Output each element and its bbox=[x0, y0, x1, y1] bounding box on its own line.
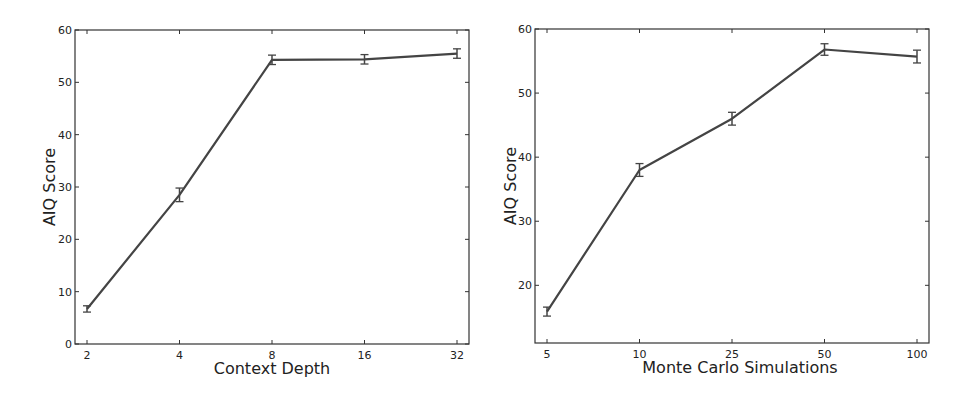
plot-frame bbox=[75, 30, 469, 344]
x-tick-label: 4 bbox=[176, 349, 183, 362]
y-axis-ticks: 2030405060 bbox=[518, 23, 929, 292]
x-axis-label: Context Depth bbox=[214, 359, 331, 378]
context-depth-plot: 0102030405060 2481632 Context Depth AIQ … bbox=[0, 0, 486, 399]
y-tick-label: 10 bbox=[58, 286, 72, 299]
x-axis-ticks: 5102550100 bbox=[544, 29, 928, 361]
y-tick-label: 40 bbox=[58, 129, 72, 142]
y-tick-label: 20 bbox=[58, 233, 72, 246]
y-tick-label: 40 bbox=[518, 151, 532, 164]
x-axis-label: Monte Carlo Simulations bbox=[642, 358, 837, 377]
plot-frame bbox=[535, 29, 929, 343]
data-series bbox=[543, 44, 921, 316]
y-tick-label: 20 bbox=[518, 279, 532, 292]
y-tick-label: 60 bbox=[518, 23, 532, 36]
error-bar bbox=[728, 112, 736, 125]
x-axis-ticks: 2481632 bbox=[84, 30, 465, 362]
series-line bbox=[87, 54, 457, 309]
x-tick-label: 5 bbox=[544, 348, 551, 361]
monte-carlo-plot: 2030405060 5102550100 Monte Carlo Simula… bbox=[486, 0, 973, 399]
y-axis-label: AIQ Score bbox=[40, 148, 59, 226]
y-tick-label: 50 bbox=[518, 87, 532, 100]
y-axis-label: AIQ Score bbox=[501, 147, 520, 225]
series-line bbox=[547, 50, 917, 312]
data-series bbox=[83, 49, 461, 312]
x-tick-label: 32 bbox=[450, 349, 464, 362]
y-tick-label: 30 bbox=[58, 181, 72, 194]
x-tick-label: 2 bbox=[84, 349, 91, 362]
y-tick-label: 50 bbox=[58, 76, 72, 89]
y-tick-label: 30 bbox=[518, 215, 532, 228]
x-tick-label: 16 bbox=[358, 349, 372, 362]
context-depth-chart: 0102030405060 2481632 Context Depth AIQ … bbox=[0, 0, 486, 399]
y-tick-label: 60 bbox=[58, 24, 72, 37]
monte-carlo-chart: 2030405060 5102550100 Monte Carlo Simula… bbox=[486, 0, 973, 399]
y-tick-label: 0 bbox=[65, 338, 72, 351]
x-tick-label: 100 bbox=[907, 348, 928, 361]
